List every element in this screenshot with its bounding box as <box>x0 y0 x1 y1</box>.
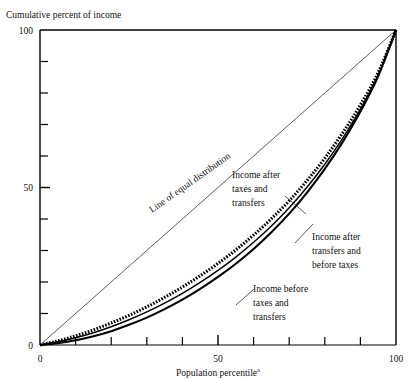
annotation-income-before-taxes-and-transfers: Income before taxes and transfers <box>253 284 308 322</box>
leader-line-before-taxes-transfers <box>236 289 254 305</box>
annotation-after-taxes-line-1: Income after <box>232 170 281 180</box>
chart-canvas: Cumulative percent of income 100 50 0 <box>0 0 414 380</box>
annotation-before-taxes-line-2: taxes and <box>253 298 289 308</box>
annotation-income-after-taxes-and-transfers: Income after taxes and transfers <box>232 170 281 208</box>
annotation-after-taxes-line-2: taxes and <box>232 184 268 194</box>
series-line-of-equal-distribution <box>40 30 396 345</box>
leader-line-after-transfers-before-taxes <box>295 224 313 243</box>
annotation-after-transfers-line-3: before taxes <box>312 260 358 270</box>
annotation-after-transfers-line-1: Income after <box>312 232 361 242</box>
y-axis-title: Cumulative percent of income <box>6 10 121 20</box>
y-tick-label-0: 0 <box>28 341 33 351</box>
annotation-after-transfers-line-2: transfers and <box>312 246 361 256</box>
x-tick-label-0: 0 <box>38 354 43 364</box>
x-tick-label-50: 50 <box>213 354 223 364</box>
annotation-before-taxes-line-1: Income before <box>253 284 308 294</box>
annotation-before-taxes-line-3: transfers <box>253 312 286 322</box>
x-axis-ticks <box>76 335 361 345</box>
y-tick-label-100: 100 <box>19 26 34 36</box>
annotation-line-of-equal-distribution: Line of equal distribution <box>147 151 232 215</box>
x-tick-label-100: 100 <box>389 354 404 364</box>
annotation-after-taxes-line-3: transfers <box>232 198 265 208</box>
y-axis-ticks <box>40 62 50 314</box>
annotation-income-after-transfers-and-before-taxes: Income after transfers and before taxes <box>312 232 361 270</box>
x-axis-title: Population percentilea <box>176 366 260 378</box>
y-tick-label-50: 50 <box>24 183 34 193</box>
lorenz-curve-figure: Cumulative percent of income 100 50 0 <box>0 0 414 380</box>
